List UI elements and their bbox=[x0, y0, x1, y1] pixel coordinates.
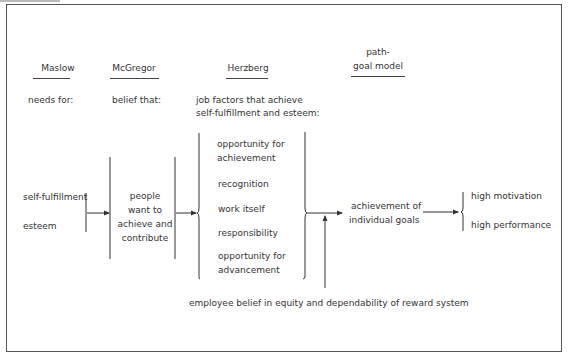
herzberg-right-brace bbox=[303, 132, 307, 279]
connector-lines bbox=[0, 0, 570, 359]
outcomes-brace bbox=[461, 192, 463, 231]
herzberg-left-brace bbox=[197, 133, 200, 279]
